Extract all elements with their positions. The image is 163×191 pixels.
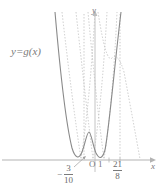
graph-canvas <box>0 0 163 191</box>
minus-sign-neg-three-tenths: − <box>57 169 62 179</box>
graph-figure: y=g(x) y x O 1 − 3 10 21 8 <box>0 0 163 191</box>
y-axis-label: y <box>92 6 96 15</box>
dotted-curves-group <box>62 12 140 160</box>
fraction-numerator: 3 <box>64 164 73 173</box>
x-axis-label: x <box>151 162 155 171</box>
function-label: y=g(x) <box>11 46 41 57</box>
curve-g-of-x <box>55 12 121 158</box>
fraction-numerator: 21 <box>113 160 122 169</box>
tick-label-neg-three-tenths: 3 10 <box>64 164 73 186</box>
tick-label-twentyone-eighths: 21 8 <box>113 160 122 182</box>
axes-group <box>2 10 156 172</box>
origin-label: O <box>89 160 96 169</box>
fraction-denominator: 8 <box>113 172 122 181</box>
fraction-denominator: 10 <box>64 176 73 185</box>
tick-label-one: 1 <box>98 160 103 169</box>
leader-line-neg-three-tenths <box>74 157 85 167</box>
